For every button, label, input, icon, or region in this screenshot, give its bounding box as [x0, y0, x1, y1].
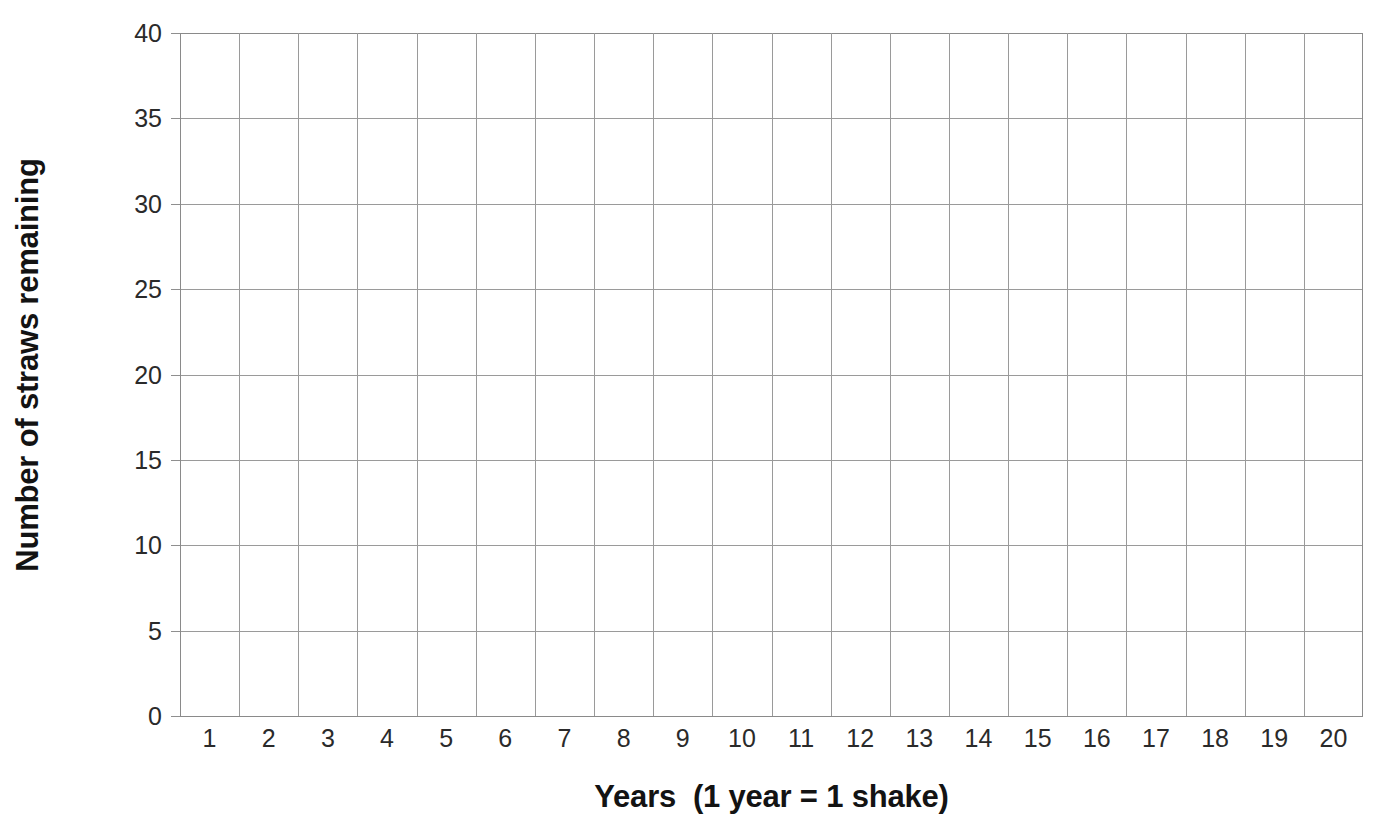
gridline-vertical [712, 33, 713, 716]
x-axis-tick-label: 20 [1320, 726, 1348, 751]
gridline-vertical [653, 33, 654, 716]
y-axis-tick-label: 0 [148, 704, 162, 729]
gridline-vertical [1186, 33, 1187, 716]
y-axis-tick-mark [171, 33, 180, 34]
gridline-horizontal [180, 716, 1363, 717]
y-axis-tick-mark [171, 289, 180, 290]
y-axis-tick-labels: 0510152025303540 [96, 33, 172, 716]
x-axis-tick-label: 14 [965, 726, 993, 751]
y-axis-title-text: Number of straws remaining [10, 158, 46, 571]
x-axis-tick-label: 8 [617, 726, 631, 751]
x-axis-tick-label: 17 [1142, 726, 1170, 751]
x-axis-tick-label: 15 [1024, 726, 1052, 751]
gridline-vertical [535, 33, 536, 716]
y-axis-tick-mark [171, 716, 180, 717]
x-axis-tick-label: 5 [439, 726, 453, 751]
y-axis-tick-mark [171, 460, 180, 461]
gridline-vertical [949, 33, 950, 716]
y-axis-tick-mark [171, 375, 180, 376]
x-axis-tick-label: 3 [321, 726, 335, 751]
gridline-vertical [1126, 33, 1127, 716]
y-axis-tick-label: 20 [134, 362, 162, 387]
y-axis-tick-label: 40 [134, 21, 162, 46]
gridline-vertical [594, 33, 595, 716]
x-axis-tick-label: 6 [498, 726, 512, 751]
y-axis-tick-label: 25 [134, 277, 162, 302]
y-axis-tick-mark [171, 118, 180, 119]
gridline-vertical [1362, 33, 1363, 716]
y-axis-tick-label: 15 [134, 447, 162, 472]
gridline-vertical [890, 33, 891, 716]
x-axis-tick-label: 1 [203, 726, 217, 751]
gridline-vertical [772, 33, 773, 716]
x-axis-tick-label: 2 [262, 726, 276, 751]
y-axis-tick-label: 35 [134, 106, 162, 131]
x-axis-tick-labels: 1234567891011121314151617181920 [180, 726, 1363, 766]
gridline-vertical [298, 33, 299, 716]
gridline-vertical [1067, 33, 1068, 716]
y-axis-tick-mark [171, 631, 180, 632]
y-axis-title: Number of straws remaining [0, 0, 56, 730]
x-axis-tick-label: 19 [1260, 726, 1288, 751]
x-axis-tick-label: 7 [558, 726, 572, 751]
gridline-vertical [1008, 33, 1009, 716]
y-axis-tick-label: 5 [148, 618, 162, 643]
gridline-vertical [1304, 33, 1305, 716]
gridline-vertical [180, 33, 181, 716]
y-axis-tick-label: 30 [134, 191, 162, 216]
plot-area [180, 33, 1363, 716]
y-axis-tick-mark [171, 545, 180, 546]
x-axis-tick-label: 9 [676, 726, 690, 751]
x-axis-tick-label: 13 [905, 726, 933, 751]
x-axis-tick-label: 10 [728, 726, 756, 751]
gridline-vertical [417, 33, 418, 716]
gridline-vertical [239, 33, 240, 716]
x-axis-title: Years (1 year = 1 shake) [180, 779, 1363, 815]
gridline-vertical [357, 33, 358, 716]
x-axis-tick-label: 16 [1083, 726, 1111, 751]
y-axis-tick-mark [171, 204, 180, 205]
y-axis-tick-label: 10 [134, 533, 162, 558]
x-axis-tick-label: 4 [380, 726, 394, 751]
x-axis-tick-label: 11 [788, 726, 814, 751]
x-axis-tick-label: 18 [1201, 726, 1229, 751]
gridline-vertical [476, 33, 477, 716]
gridline-vertical [831, 33, 832, 716]
chart-page: Number of straws remaining 0510152025303… [0, 0, 1388, 836]
x-axis-tick-label: 12 [846, 726, 874, 751]
gridline-vertical [1245, 33, 1246, 716]
